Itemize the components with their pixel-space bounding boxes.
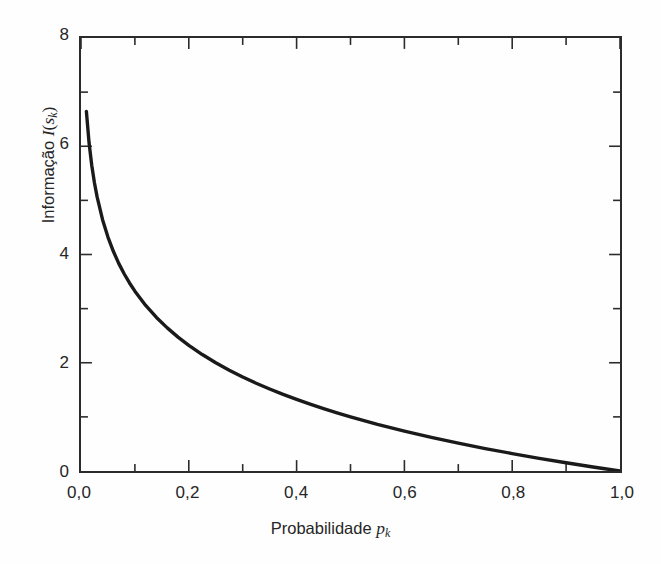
- y-axis-title-open-paren: (: [38, 125, 58, 131]
- y-axis-title: Informação I(sk): [38, 107, 61, 224]
- y-axis-title-variable: I: [38, 130, 58, 136]
- x-tick-label: 0,8: [483, 483, 543, 503]
- x-axis-title-variable: p: [376, 518, 385, 538]
- x-tick-label: 0,6: [375, 483, 435, 503]
- axis-ticks: [81, 38, 620, 471]
- information-curve: [86, 111, 620, 471]
- x-axis-title-prefix: Probabilidade: [271, 519, 377, 537]
- y-axis-title-container: Informação I(sk): [35, 0, 65, 365]
- y-axis-title-prefix: Informação: [39, 136, 57, 223]
- x-axis-title-subscript: k: [385, 526, 390, 540]
- plot-svg: [81, 38, 620, 471]
- y-axis-title-symbol: s: [38, 118, 58, 125]
- x-tick-label: 1,0: [592, 483, 652, 503]
- plot-area: [79, 36, 622, 473]
- figure-canvas: 02468 0,00,20,40,60,81,0 Informação I(sk…: [0, 0, 661, 564]
- x-tick-label: 0,0: [49, 483, 109, 503]
- x-tick-label: 0,4: [266, 483, 326, 503]
- y-tick-label: 0: [29, 462, 69, 482]
- x-tick-label: 0,2: [158, 483, 218, 503]
- y-axis-title-subscript: k: [47, 112, 61, 117]
- x-axis-title: Probabilidade pk: [0, 518, 661, 541]
- y-axis-title-close-paren: ): [38, 107, 58, 113]
